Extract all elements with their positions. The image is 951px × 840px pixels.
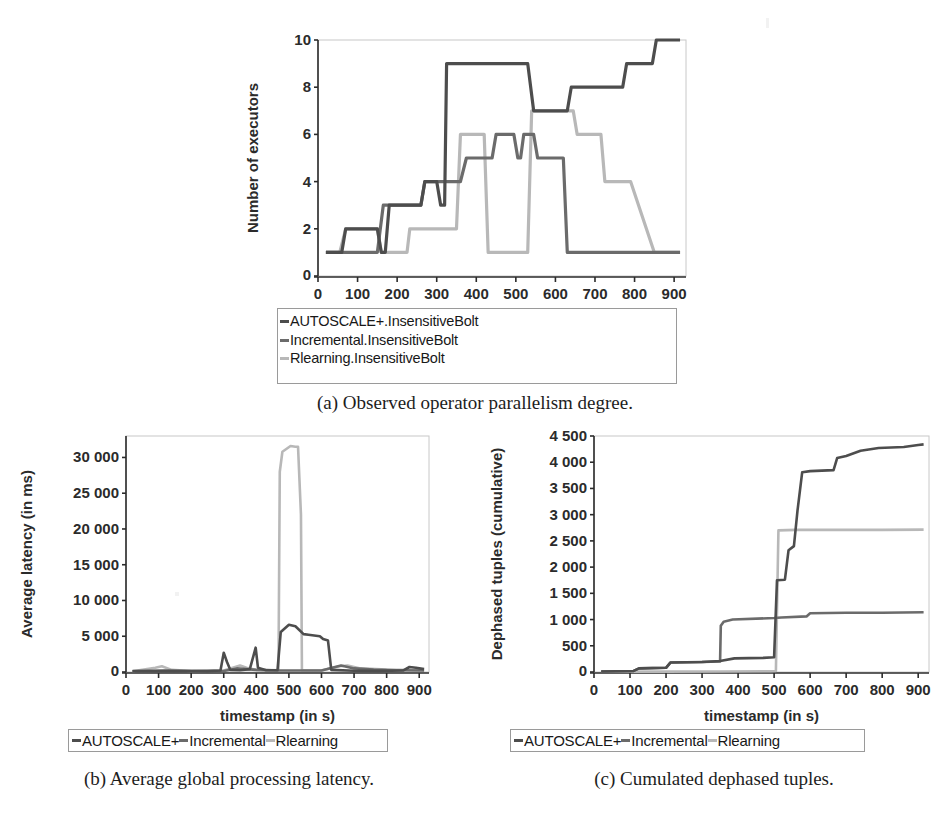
x-tick-label: 300 — [211, 681, 236, 698]
x-tick-label: 700 — [582, 285, 607, 302]
y-tick-label: 25 000 — [73, 484, 119, 501]
y-tick-label: 1 500 — [549, 584, 587, 601]
legend-swatch-icon — [280, 339, 289, 342]
x-tick-label: 100 — [146, 681, 171, 698]
x-tick-label: 300 — [690, 681, 715, 698]
legend-swatch-icon — [266, 739, 275, 742]
legend-swatch-icon — [179, 739, 188, 742]
y-tick-label: 2 000 — [549, 558, 587, 575]
legend-b: AUTOSCALE+ Incremental Rlearning — [68, 729, 388, 752]
figure-c: 05001 0001 5002 0002 5003 0003 5004 0004… — [484, 424, 944, 724]
y-tick-label: 3 500 — [549, 479, 587, 496]
x-tick-label: 0 — [314, 285, 322, 302]
y-tick-label: 20 000 — [73, 520, 119, 537]
x-axis-title: timestamp (in s) — [220, 707, 335, 724]
caption-b: (b) Average global processing latency. — [14, 768, 444, 790]
x-tick-label: 200 — [179, 681, 204, 698]
y-tick-label: 5 000 — [81, 627, 119, 644]
legend-item[interactable]: Rlearning — [266, 732, 338, 749]
x-tick-label: 200 — [385, 285, 410, 302]
x-tick-label: 800 — [374, 681, 399, 698]
x-axis-title: timestamp (in s) — [704, 707, 819, 724]
legend-label: Incremental — [189, 732, 265, 749]
x-tick-label: 900 — [906, 681, 931, 698]
figure-a: 02468100100200300400500600700800900times… — [240, 28, 710, 328]
legend-swatch-icon — [708, 739, 717, 742]
x-tick-label: 400 — [464, 285, 489, 302]
caption-c: (c) Cumulated dephased tuples. — [484, 768, 944, 790]
y-axis-title: Average latency (in ms) — [18, 470, 35, 638]
legend-item[interactable]: Rlearning — [708, 732, 780, 749]
legend-swatch-icon — [280, 320, 289, 323]
y-tick-label: 8 — [303, 78, 311, 95]
legend-label: Rlearning — [276, 732, 338, 749]
legend-a: AUTOSCALE+.InsensitiveBolt Incremental.I… — [277, 308, 677, 384]
x-tick-label: 100 — [345, 285, 370, 302]
legend-label: Incremental — [631, 732, 707, 749]
y-tick-label: 3 000 — [549, 506, 587, 523]
legend-swatch-icon — [621, 739, 630, 742]
y-tick-label: 4 000 — [549, 453, 587, 470]
y-tick-label: 500 — [562, 637, 587, 654]
y-tick-label: 15 000 — [73, 556, 119, 573]
legend-item[interactable]: Incremental — [621, 732, 707, 749]
x-tick-label: 600 — [543, 285, 568, 302]
legend-label: Incremental.InsensitiveBolt — [290, 332, 458, 349]
x-tick-label: 800 — [870, 681, 895, 698]
chart-b-svg: 05 00010 00015 00020 00025 00030 0000100… — [14, 424, 439, 724]
x-tick-label: 600 — [798, 681, 823, 698]
x-tick-label: 0 — [590, 681, 598, 698]
chart-c-dephased: 05001 0001 5002 0002 5003 0003 5004 0004… — [484, 424, 944, 724]
legend-label: Rlearning.InsensitiveBolt — [290, 350, 445, 367]
chart-b-latency: 05 00010 00015 00020 00025 00030 0000100… — [14, 424, 444, 724]
y-tick-label: 4 500 — [549, 427, 587, 444]
x-tick-label: 800 — [622, 285, 647, 302]
figure-b: 05 00010 00015 00020 00025 00030 0000100… — [14, 424, 444, 724]
x-tick-label: 500 — [762, 681, 787, 698]
x-tick-label: 900 — [407, 681, 432, 698]
legend-item[interactable]: AUTOSCALE+ — [514, 732, 621, 749]
legend-swatch-icon — [280, 357, 289, 360]
legend-swatch-icon — [72, 739, 81, 742]
x-tick-label: 300 — [424, 285, 449, 302]
legend-item[interactable]: Rlearning.InsensitiveBolt — [280, 350, 445, 367]
x-tick-label: 700 — [834, 681, 859, 698]
plot-area — [318, 40, 686, 276]
legend-swatch-icon — [514, 739, 523, 742]
legend-label: AUTOSCALE+ — [82, 732, 179, 749]
y-tick-label: 0 — [579, 662, 587, 679]
x-tick-label: 0 — [122, 681, 130, 698]
x-tick-label: 500 — [276, 681, 301, 698]
y-tick-label: 4 — [303, 173, 312, 190]
y-tick-label: 6 — [303, 125, 311, 142]
paper-speck — [175, 592, 179, 596]
x-tick-label: 600 — [309, 681, 334, 698]
y-tick-label: 30 000 — [73, 448, 119, 465]
y-tick-label: 10 — [294, 31, 311, 48]
x-tick-label: 400 — [726, 681, 751, 698]
legend-item[interactable]: AUTOSCALE+.InsensitiveBolt — [280, 313, 478, 330]
legend-c: AUTOSCALE+ Incremental Rlearning — [510, 729, 865, 752]
x-tick-label: 400 — [244, 681, 269, 698]
y-tick-label: 0 — [111, 662, 119, 679]
legend-item[interactable]: Incremental.InsensitiveBolt — [280, 332, 458, 349]
legend-item[interactable]: Incremental — [179, 732, 265, 749]
x-tick-label: 100 — [618, 681, 643, 698]
legend-item[interactable]: AUTOSCALE+ — [72, 732, 179, 749]
y-tick-label: 10 000 — [73, 591, 119, 608]
legend-label: AUTOSCALE+ — [524, 732, 621, 749]
plot-area — [594, 436, 929, 672]
y-tick-label: 2 500 — [549, 532, 587, 549]
legend-label: Rlearning — [718, 732, 780, 749]
x-tick-label: 200 — [654, 681, 679, 698]
chart-a-parallelism: 02468100100200300400500600700800900times… — [240, 28, 710, 328]
y-axis-title: Dephased tuples (cumulative) — [488, 448, 505, 661]
x-tick-label: 500 — [503, 285, 528, 302]
y-axis-title: Number of executors — [244, 83, 261, 233]
y-tick-label: 0 — [303, 266, 311, 283]
caption-a: (a) Observed operator parallelism degree… — [240, 392, 710, 414]
x-tick-label: 700 — [342, 681, 367, 698]
chart-a-svg: 02468100100200300400500600700800900times… — [240, 28, 700, 328]
x-tick-label: 900 — [662, 285, 687, 302]
chart-c-svg: 05001 0001 5002 0002 5003 0003 5004 0004… — [484, 424, 939, 724]
